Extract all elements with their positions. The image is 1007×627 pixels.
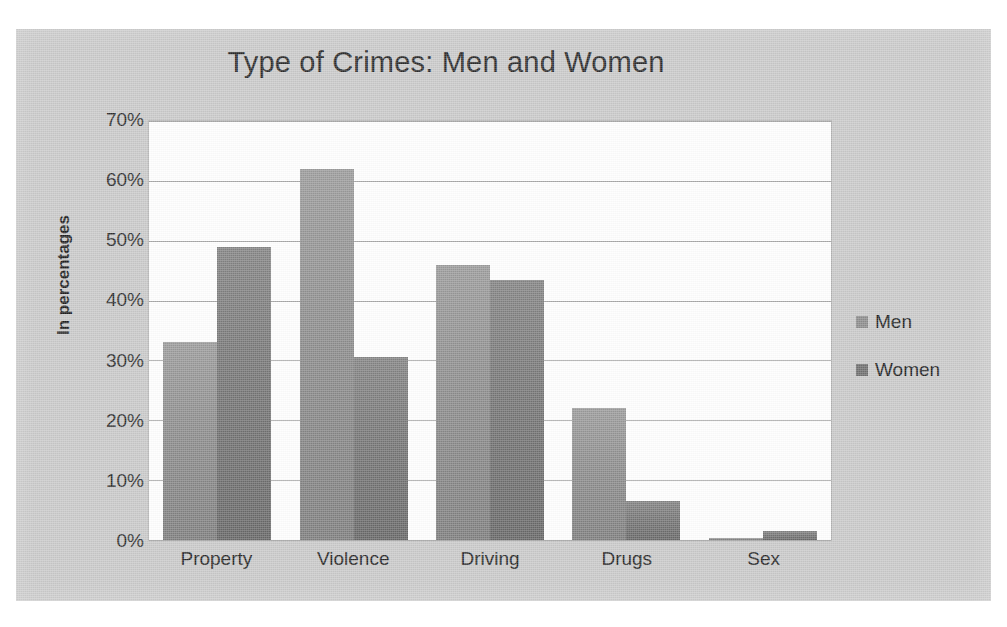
x-axis-tick: Violence xyxy=(285,548,422,570)
bar-women-drugs[interactable] xyxy=(626,501,680,540)
y-axis-tick: 0% xyxy=(48,530,144,552)
y-axis-tick: 50% xyxy=(48,229,144,251)
y-axis-tick: 20% xyxy=(48,410,144,432)
legend-item-label: Women xyxy=(875,359,940,381)
legend-item-women[interactable]: Women xyxy=(856,359,986,381)
x-axis-tick: Property xyxy=(148,548,285,570)
legend-item-men[interactable]: Men xyxy=(856,311,986,333)
bar-men-violence[interactable] xyxy=(300,169,354,540)
legend-swatch-icon xyxy=(856,316,868,328)
bar-group xyxy=(558,121,694,540)
y-axis-tick-labels: 70% 60% 50% 40% 30% 20% 10% 0% xyxy=(36,120,144,541)
bar-group xyxy=(149,121,285,540)
bar-women-sex[interactable] xyxy=(763,531,817,540)
y-axis-tick: 60% xyxy=(48,169,144,191)
x-axis-tick: Sex xyxy=(695,548,832,570)
bar-women-driving[interactable] xyxy=(490,280,544,540)
bar-men-driving[interactable] xyxy=(436,265,490,540)
chart-title: Type of Crimes: Men and Women xyxy=(16,46,876,79)
y-axis-tick: 40% xyxy=(48,289,144,311)
x-axis-tick: Drugs xyxy=(558,548,695,570)
bar-men-sex[interactable] xyxy=(709,538,763,540)
bar-groups xyxy=(149,121,831,540)
bar-men-property[interactable] xyxy=(163,342,217,540)
chart-panel: Type of Crimes: Men and Women In percent… xyxy=(16,29,991,601)
gridline xyxy=(149,540,831,541)
plot-area xyxy=(148,120,832,541)
bar-group xyxy=(422,121,558,540)
scanned-page: Type of Crimes: Men and Women In percent… xyxy=(0,0,1007,627)
y-axis-tick: 70% xyxy=(48,109,144,131)
bar-group xyxy=(285,121,421,540)
x-axis-tick: Driving xyxy=(422,548,559,570)
bar-men-drugs[interactable] xyxy=(572,408,626,540)
legend-item-label: Men xyxy=(875,311,912,333)
bar-women-violence[interactable] xyxy=(354,357,408,540)
y-axis-tick: 30% xyxy=(48,350,144,372)
bar-group xyxy=(695,121,831,540)
legend: Men Women xyxy=(856,311,986,407)
x-axis-tick-labels: PropertyViolenceDrivingDrugsSex xyxy=(148,548,832,570)
y-axis-tick: 10% xyxy=(48,470,144,492)
bar-women-property[interactable] xyxy=(217,247,271,540)
legend-swatch-icon xyxy=(856,364,868,376)
